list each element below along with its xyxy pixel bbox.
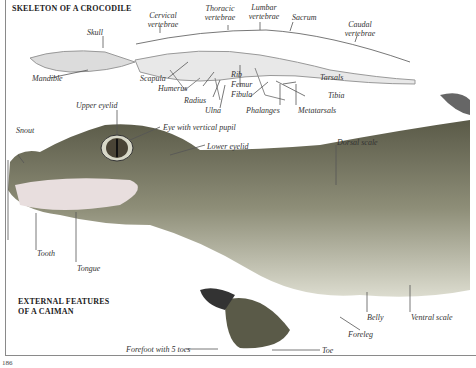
label-humerus: Humerus	[158, 84, 187, 93]
label-femur: Femur	[231, 80, 252, 89]
label-phalanges: Phalanges	[246, 106, 280, 115]
label-tibia: Tibia	[328, 91, 344, 100]
label-dorsal-scale: Dorsal scale	[337, 138, 378, 147]
label-tongue: Tongue	[77, 264, 100, 273]
label-toe: Toe	[322, 346, 333, 355]
label-sacrum: Sacrum	[292, 13, 316, 22]
external-title-line2: OF A CAIMAN	[18, 307, 110, 317]
label-snout: Snout	[16, 126, 34, 135]
label-rib: Rib	[231, 70, 242, 79]
label-cervical-vertebrae: Cervical vertebrae	[143, 11, 183, 29]
label-metatarsals: Metatarsals	[298, 106, 336, 115]
label-ulna: Ulna	[205, 106, 221, 115]
label-mandible: Mandible	[32, 74, 63, 83]
label-radius: Radius	[184, 96, 206, 105]
label-lower-eyelid: Lower eyelid	[207, 142, 249, 151]
external-title-line1: EXTERNAL FEATURES	[18, 297, 110, 307]
external-title: EXTERNAL FEATURES OF A CAIMAN	[18, 297, 110, 317]
label-fibula: Fibula	[231, 90, 252, 99]
label-foreleg: Foreleg	[348, 330, 373, 339]
label-thoracic-vertebrae: Thoracic vertebrae	[200, 4, 240, 22]
skeleton-title: SKELETON OF A CROCODILE	[12, 4, 132, 14]
label-caudal-vertebrae: Caudal vertebrae	[340, 20, 380, 38]
label-eye-vertical-pupil: Eye with vertical pupil	[163, 123, 236, 132]
label-scapula: Scapula	[140, 74, 166, 83]
label-lumbar-vertebrae: Lumbar vertebrae	[244, 3, 284, 21]
label-upper-eyelid: Upper eyelid	[76, 101, 118, 110]
label-ventral-scale: Ventral scale	[411, 313, 453, 322]
label-belly: Belly	[367, 313, 383, 322]
label-tarsals: Tarsals	[320, 73, 343, 82]
crocodile-skeleton	[30, 51, 415, 100]
label-tooth: Tooth	[37, 249, 55, 258]
page-number: 186	[2, 359, 13, 367]
label-forefoot: Forefoot with 5 toes	[126, 345, 190, 354]
label-skull: Skull	[87, 28, 103, 37]
